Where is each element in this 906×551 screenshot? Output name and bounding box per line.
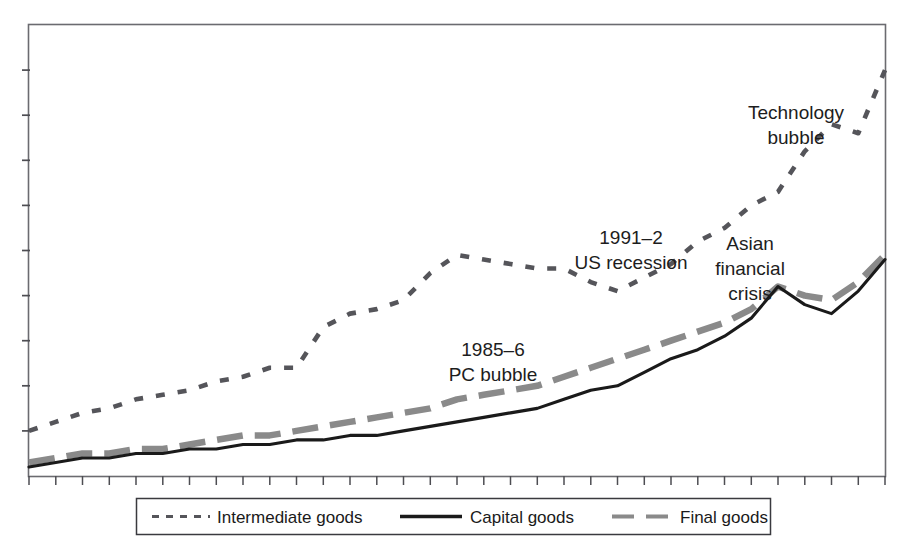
chart-legend: Intermediate goods Capital goods Final g… [137,499,771,535]
legend-label-final-goods: Final goods [680,508,768,527]
annotation-line: financial [715,258,785,279]
annotation-line: bubble [767,127,824,148]
annotation-line: Technology [748,102,845,123]
annotation-line: crisis [728,283,771,304]
legend-label-capital-goods: Capital goods [470,508,574,527]
legend-label-intermediate-goods: Intermediate goods [217,508,363,527]
annotation-line: PC bubble [449,364,538,385]
annotation-line: Asian [726,233,774,254]
annotation-line: 1991–2 [599,227,662,248]
line-chart: 1985–6PC bubble1991–2US recessionAsianfi… [0,0,906,551]
chart-figure: 1985–6PC bubble1991–2US recessionAsianfi… [0,0,906,551]
annotation-line: US recession [575,252,688,273]
x-axis-ticks [29,476,885,485]
annotation-line: 1985–6 [461,339,524,360]
